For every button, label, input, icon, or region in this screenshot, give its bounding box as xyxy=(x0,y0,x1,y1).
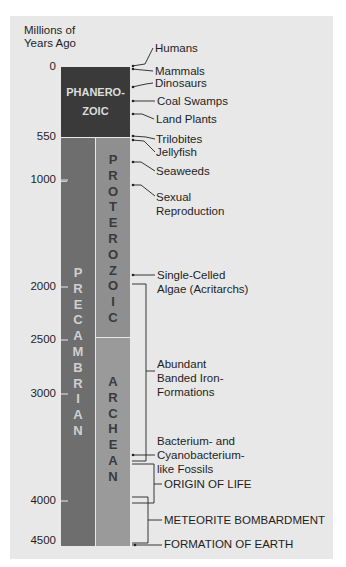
event-seaweeds: Seaweeds xyxy=(156,164,210,178)
event-coal-swamps: Coal Swamps xyxy=(157,94,228,108)
event-humans: Humans xyxy=(155,41,198,55)
event-single-celled-algae: Single-CelledAlgae (Acritarchs) xyxy=(157,268,248,296)
event-meteorite-bombardment: METEORITE BOMBARDMENT xyxy=(164,513,325,527)
event-origin-of-life: ORIGIN OF LIFE xyxy=(164,477,252,491)
event-formation-of-earth: FORMATION OF EARTH xyxy=(164,537,293,551)
event-jellyfish: Jellyfish xyxy=(156,145,197,159)
event-sexual-reproduction: SexualReproduction xyxy=(156,190,224,218)
event-trilobites: Trilobites xyxy=(156,132,202,146)
event-land-plants: Land Plants xyxy=(156,112,217,126)
event-banded-iron: AbundantBanded Iron-Formations xyxy=(157,357,224,399)
event-dinosaurs: Dinosaurs xyxy=(155,76,207,90)
event-bacterium-fossils: Bacterium- andCyanobacterium-like Fossil… xyxy=(157,434,245,476)
